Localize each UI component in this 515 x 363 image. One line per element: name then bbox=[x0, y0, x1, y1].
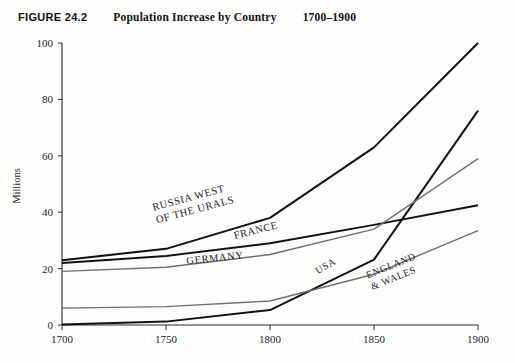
y-axis-title: Millions bbox=[11, 168, 22, 204]
axes: 020406080100 17001750180018501900 Millio… bbox=[11, 37, 490, 345]
x-tick-label: 1800 bbox=[259, 333, 282, 345]
y-tick-label: 40 bbox=[42, 206, 54, 218]
x-tick-label: 1700 bbox=[51, 333, 74, 345]
x-tick-label: 1850 bbox=[363, 333, 386, 345]
y-axis-ticks: 020406080100 bbox=[37, 37, 63, 331]
x-tick-label: 1750 bbox=[155, 333, 178, 345]
series-lines bbox=[62, 43, 478, 324]
series-label-text: USA bbox=[313, 255, 338, 276]
series-label-england: ENGLAND& WALES bbox=[364, 250, 422, 291]
x-axis-ticks: 17001750180018501900 bbox=[51, 325, 490, 345]
x-tick-label: 1900 bbox=[467, 333, 490, 345]
line-chart: 020406080100 17001750180018501900 Millio… bbox=[0, 0, 515, 363]
figure-root: FIGURE 24.2Population Increase by Countr… bbox=[0, 0, 515, 363]
y-tick-label: 0 bbox=[48, 319, 54, 331]
series-label-usa: USA bbox=[313, 255, 338, 276]
series-label-russia: RUSSIA WESTOF THE URALS bbox=[151, 181, 235, 225]
y-tick-label: 20 bbox=[42, 263, 54, 275]
series-line-germany bbox=[62, 159, 478, 272]
y-tick-label: 100 bbox=[37, 37, 54, 49]
series-labels: RUSSIA WESTOF THE URALSFRANCEGERMANYUSAE… bbox=[151, 181, 422, 292]
y-tick-label: 80 bbox=[42, 93, 54, 105]
axis-lines bbox=[62, 43, 478, 325]
y-tick-label: 60 bbox=[42, 150, 54, 162]
